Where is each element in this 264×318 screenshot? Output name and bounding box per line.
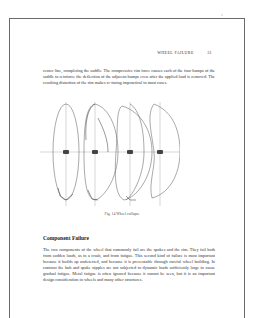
paragraph-intro: center line, completing the saddle. The … — [43, 68, 215, 86]
paragraph-component-failure: The two components of the wheel that com… — [43, 247, 215, 284]
section-heading: Component Failure — [43, 235, 89, 241]
page-number: 31 — [207, 50, 212, 55]
figure-caption: Fig. 14 Wheel collapse — [0, 212, 244, 216]
scan-speck — [221, 14, 223, 16]
wheel-collapse-figure — [40, 100, 180, 206]
running-head: WHEEL FAILURE 31 — [157, 50, 212, 55]
running-head-title: WHEEL FAILURE — [157, 50, 194, 55]
